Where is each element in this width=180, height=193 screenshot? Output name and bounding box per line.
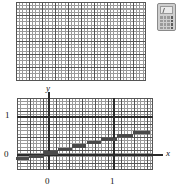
calculator-icon[interactable]: [157, 3, 176, 31]
calculator-screen-icon: [160, 6, 173, 14]
y-axis: [48, 92, 50, 170]
step-segment: [133, 131, 149, 134]
x-tick-label-1: 1: [110, 176, 115, 186]
step-segment: [16, 157, 29, 160]
calculator-key: [160, 20, 163, 23]
calculator-key: [167, 20, 170, 23]
calculator-key: [171, 16, 174, 19]
calculator-key: [171, 27, 174, 30]
x-axis-label: x: [166, 148, 170, 158]
y-tick-label-0: 0: [4, 149, 9, 159]
calculator-key: [171, 23, 174, 26]
calculator-key: [160, 23, 163, 26]
calculator-key: [164, 20, 167, 23]
calculator-key: [164, 23, 167, 26]
step-segment: [44, 151, 58, 154]
calculator-key: [167, 23, 170, 26]
calculator-key: [171, 20, 174, 23]
calculator-key: [160, 27, 163, 30]
y-axis-label: y: [46, 83, 50, 93]
step-segment: [29, 155, 43, 158]
gridline-y-1: [17, 116, 153, 118]
step-segment: [58, 148, 72, 151]
calculator-key: [167, 16, 170, 19]
gridline-x-1: [113, 98, 115, 170]
blank-grid-panel: [16, 2, 146, 81]
step-segment: [117, 134, 133, 137]
calculator-key: [164, 16, 167, 19]
x-tick-label-0: 0: [45, 176, 50, 186]
y-tick-label-1: 1: [5, 110, 10, 120]
calculator-key: [160, 16, 163, 19]
calculator-keys-icon: [160, 16, 173, 29]
step-segment: [101, 138, 117, 141]
calculator-key: [167, 27, 170, 30]
calculator-key: [164, 27, 167, 30]
step-segment: [87, 141, 101, 144]
step-segment: [72, 144, 86, 147]
